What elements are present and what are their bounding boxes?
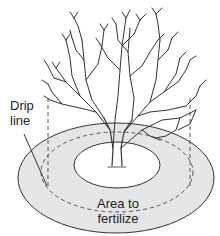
area-label-line2: fertilize	[82, 211, 154, 226]
drip-line-label-line2: line	[10, 113, 50, 128]
drip-line-label: Drip line	[10, 98, 50, 128]
area-to-fertilize-label: Area to fertilize	[82, 196, 154, 226]
inner-circle	[74, 142, 160, 188]
area-label-line1: Area to	[82, 196, 154, 211]
drip-line-label-line1: Drip	[10, 98, 50, 113]
tree-fertilize-diagram: Drip line Area to fertilize	[0, 0, 220, 236]
